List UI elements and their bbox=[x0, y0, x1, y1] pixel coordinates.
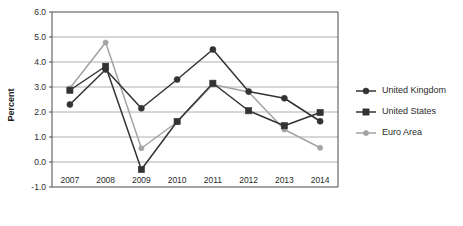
series-line bbox=[70, 43, 320, 149]
y-tick-label: 3.0 bbox=[34, 82, 46, 92]
series-line bbox=[70, 50, 320, 122]
data-point-marker bbox=[363, 130, 368, 135]
data-point-marker bbox=[67, 87, 73, 93]
legend-label: United States bbox=[382, 106, 437, 116]
data-point-marker bbox=[210, 47, 216, 53]
data-point-marker bbox=[246, 108, 252, 114]
data-point-marker bbox=[281, 95, 287, 101]
x-tick-label: 2008 bbox=[96, 175, 115, 185]
x-tick-label: 2012 bbox=[239, 175, 258, 185]
data-point-marker bbox=[281, 123, 287, 129]
data-point-marker bbox=[363, 109, 369, 115]
data-point-marker bbox=[246, 89, 252, 95]
y-tick-label: 4.0 bbox=[34, 57, 46, 67]
chart-canvas: 6.05.04.03.02.01.00.0-1.0 Percent 200720… bbox=[0, 0, 463, 226]
x-tick-label: 2009 bbox=[132, 175, 151, 185]
data-point-marker bbox=[138, 105, 144, 111]
data-point-marker bbox=[103, 40, 108, 45]
data-point-marker bbox=[138, 166, 144, 172]
y-tick-label: 2.0 bbox=[34, 107, 46, 117]
line-chart: 6.05.04.03.02.01.00.0-1.0 Percent 200720… bbox=[0, 0, 463, 226]
data-point-marker bbox=[363, 88, 369, 94]
y-tick-label: 1.0 bbox=[34, 132, 46, 142]
legend-label: United Kingdom bbox=[382, 85, 446, 95]
data-point-marker bbox=[67, 102, 73, 108]
data-point-marker bbox=[103, 67, 109, 73]
data-point-marker bbox=[174, 118, 180, 124]
x-tick-label: 2010 bbox=[168, 175, 187, 185]
x-tick-label: 2014 bbox=[311, 175, 330, 185]
series-line bbox=[70, 66, 320, 169]
data-point-marker bbox=[317, 109, 323, 115]
data-point-marker bbox=[317, 118, 323, 124]
y-tick-label: 6.0 bbox=[34, 7, 46, 17]
series-united-kingdom bbox=[67, 47, 323, 125]
x-tick-label: 2011 bbox=[204, 175, 223, 185]
y-axis-title: Percent bbox=[6, 88, 16, 121]
x-tick-label: 2007 bbox=[60, 175, 79, 185]
y-tick-label: -1.0 bbox=[31, 182, 46, 192]
series-united-states bbox=[67, 63, 323, 172]
data-point-marker bbox=[318, 145, 323, 150]
x-tick-label: 2013 bbox=[275, 175, 294, 185]
data-point-marker bbox=[139, 146, 144, 151]
legend-label: Euro Area bbox=[382, 127, 422, 137]
chart-legend: United KingdomUnited StatesEuro Area bbox=[356, 85, 446, 137]
data-point-marker bbox=[174, 77, 180, 83]
y-tick-label: 5.0 bbox=[34, 32, 46, 42]
data-point-marker bbox=[210, 80, 216, 86]
x-axis-tick-labels: 20072008200920102011201220132014 bbox=[60, 175, 329, 185]
y-tick-label: 0.0 bbox=[34, 157, 46, 167]
y-axis-tick-labels: 6.05.04.03.02.01.00.0-1.0 bbox=[31, 7, 46, 192]
